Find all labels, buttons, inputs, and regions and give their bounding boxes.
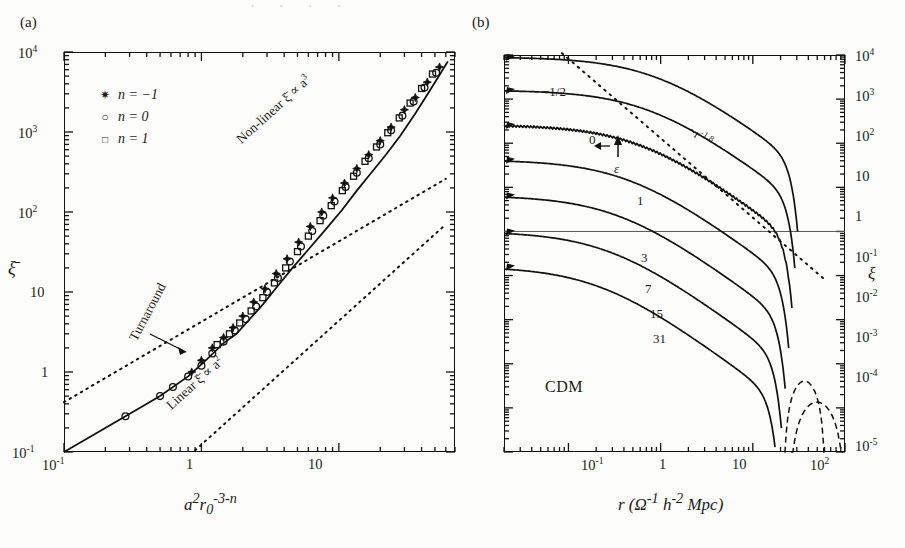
panel-b-xtick-3: 102 (810, 456, 829, 474)
panel-b-x-axis-label: r (Ω-1 h-2 Mpc) (618, 490, 723, 515)
panel-b-curve-label-4: 7 (645, 281, 652, 297)
panel-b-curve-label-0: −1/2 (542, 84, 566, 100)
panel-a-ytick-1: 103 (18, 124, 37, 142)
legend-label-0: n = −1 (118, 87, 158, 103)
panel-b-ytick-4: 1 (855, 208, 862, 225)
panel-b-ytick-2: 102 (855, 127, 874, 145)
panel-b-xtick-1: 1 (659, 456, 666, 473)
panel-a-ytick-2: 102 (18, 204, 37, 222)
panel-b-curve-label-3: 3 (641, 250, 648, 266)
panel-b-tag: (b) (472, 14, 490, 31)
panel-a-x-axis-label: a2r0-3-n (184, 490, 237, 518)
panel-a-ytick-5: 10-1 (12, 444, 34, 462)
star-icon: ✷ (92, 88, 118, 103)
square-icon: □ (92, 134, 118, 145)
panel-b-curve-label-5: 15 (650, 306, 663, 322)
panel-a-tag: (a) (20, 14, 37, 31)
legend-label-1: n = 0 (118, 109, 148, 125)
panel-a-xtick-0: 10-1 (42, 456, 64, 474)
panel-b-y-axis-label: ξ (868, 264, 875, 284)
figure-root: · · · · (a) 104 103 102 10 1 10-1 10-1 1… (0, 0, 905, 548)
panel-b-ytick-7: 10-3 (855, 328, 877, 346)
panel-a-ytick-0: 104 (18, 44, 37, 62)
panel-a-y-axis-label: ξ̄ (8, 258, 16, 279)
panel-a-ytick-3: 10 (30, 284, 45, 301)
panel-b-epsilon-label: ε (614, 161, 619, 177)
panel-b-ytick-1: 103 (855, 87, 874, 105)
panel-b-ytick-9: 10-5 (855, 437, 877, 455)
panel-a-legend: ✷ n = −1 ○ n = 0 □ n = 1 (92, 84, 158, 150)
panel-b-ytick-8: 10-4 (855, 368, 877, 386)
panel-a-ytick-4: 1 (41, 364, 48, 381)
panel-b-ytick-6: 10-2 (855, 288, 877, 306)
panel-b-xtick-2: 10 (732, 456, 747, 473)
legend-entry-n-1: □ n = 1 (92, 128, 158, 150)
panel-a-xtick-2: 10 (308, 456, 323, 473)
panel-b-xtick-0: 10-1 (581, 456, 603, 474)
legend-label-2: n = 1 (118, 131, 148, 147)
legend-entry-n-0: ○ n = 0 (92, 106, 158, 128)
circle-icon: ○ (92, 110, 118, 125)
panel-b-curve-label-6: 31 (653, 331, 666, 347)
panel-b-ytick-0: 104 (855, 47, 874, 65)
panel-b-ytick-3: 10 (855, 168, 870, 185)
panel-b-curve-label-1: 0 (589, 132, 596, 148)
legend-entry-n-minus-1: ✷ n = −1 (92, 84, 158, 106)
panel-b-curve-label-2: 1 (637, 193, 644, 209)
panel-b-model-label: CDM (545, 378, 583, 396)
page-header-bleed: · · · · (250, 0, 650, 14)
panel-a-xtick-1: 1 (186, 456, 193, 473)
